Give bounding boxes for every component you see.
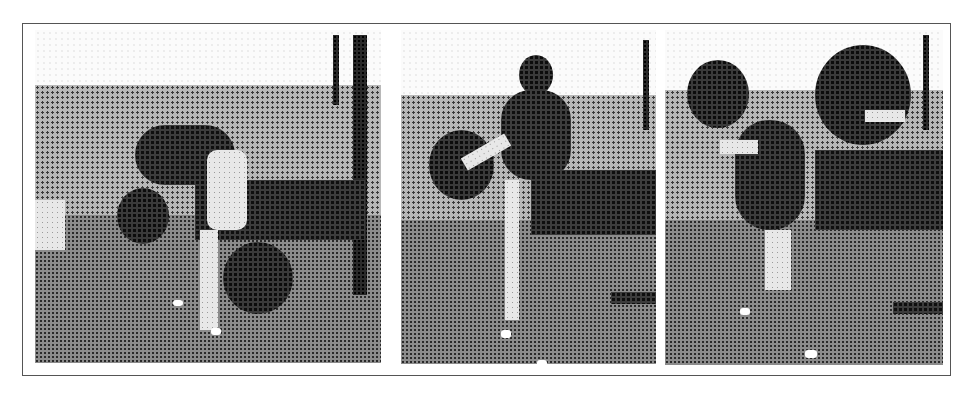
person-head	[687, 60, 749, 128]
fence	[35, 200, 65, 250]
photo-panel-3	[665, 30, 943, 365]
shoe	[537, 360, 547, 364]
dark-bench	[531, 170, 656, 235]
person-leg	[505, 180, 519, 320]
ground-area	[665, 220, 943, 365]
person-leg	[200, 230, 218, 330]
pole	[353, 35, 367, 295]
shoe	[805, 350, 817, 358]
pole	[333, 35, 339, 105]
shoe	[740, 308, 750, 315]
shoe	[173, 300, 183, 306]
person-leg	[765, 230, 791, 290]
pole	[643, 40, 649, 130]
medicine-ball	[429, 130, 494, 200]
distant-object	[611, 292, 656, 304]
photo-panel-2	[401, 30, 656, 364]
person-shirt	[207, 150, 247, 230]
shoe	[501, 330, 511, 338]
dark-bench	[815, 150, 943, 230]
distant-object	[893, 302, 943, 314]
towel	[865, 110, 905, 122]
medicine-ball	[117, 188, 169, 244]
medicine-ball-overhead	[815, 45, 911, 145]
person-torso	[735, 120, 805, 230]
photo-panel-1	[35, 30, 381, 363]
person-arm	[720, 140, 758, 154]
person-torso	[501, 90, 571, 180]
shoe	[211, 328, 221, 335]
person-head	[519, 55, 553, 95]
pole	[923, 35, 929, 130]
medicine-ball-ground	[223, 242, 293, 314]
